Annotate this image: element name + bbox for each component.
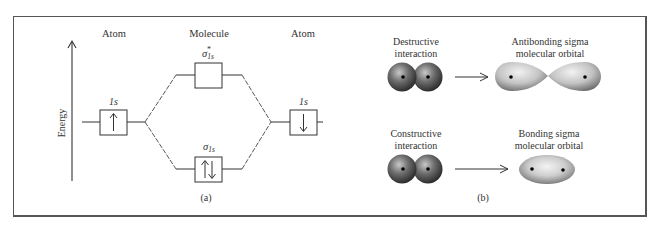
mo-diagram-figure: Atom Molecule Atom Energy 1s 1s σ1s* σ1s…	[0, 0, 661, 231]
left-atom-header: Atom	[94, 28, 134, 40]
bonding-sigma-level	[176, 157, 242, 182]
bonding-orbital-label: Bonding sigma molecular orbital	[504, 128, 594, 151]
antibonding-sigma-label: σ1s*	[195, 48, 225, 63]
antibonding-orbital-label: Antibonding sigma molecular orbital	[500, 36, 600, 59]
destructive-interaction-label: Destructive interaction	[380, 36, 452, 59]
bonding-sigma-label: σ1s	[194, 141, 224, 156]
molecule-header: Molecule	[183, 28, 235, 40]
right-atom-1s-level	[271, 110, 323, 135]
panel-b-label: (b)	[471, 192, 495, 204]
constructive-atomic-orbitals	[388, 155, 443, 184]
destructive-atomic-orbitals	[388, 63, 443, 92]
bonding-sigma-orbital-shape	[519, 155, 575, 184]
antibonding-star: *	[207, 45, 211, 54]
left-1s-label: 1s	[100, 96, 127, 108]
antibonding-sigma-orbital-shape	[495, 62, 601, 91]
panel-a-label: (a)	[194, 192, 218, 204]
energy-axis-label: Energy	[56, 93, 68, 153]
energy-axis	[68, 41, 76, 181]
antibonding-sigma-level	[176, 63, 242, 88]
right-atom-header: Atom	[283, 28, 323, 40]
sigma-subscript: 1s	[208, 145, 215, 154]
right-1s-label: 1s	[290, 96, 317, 108]
constructive-interaction-label: Constructive interaction	[376, 128, 456, 151]
